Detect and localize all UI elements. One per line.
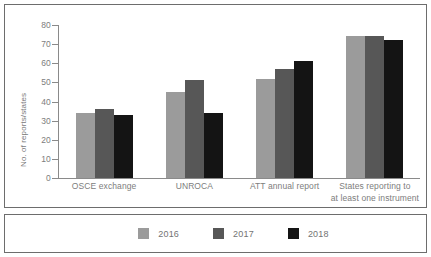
legend-item[interactable]: 2016: [138, 228, 179, 239]
legend-item[interactable]: 2018: [288, 228, 329, 239]
y-axis-tick-labels: 01020304050607080: [27, 17, 51, 187]
y-axis-tick-label: 20: [41, 135, 51, 145]
legend-label: 2016: [158, 229, 179, 239]
legend-swatch: [138, 228, 149, 239]
chart-figure: No. of reports/states 01020304050607080 …: [0, 0, 431, 257]
y-axis-tick-label: 50: [41, 77, 51, 87]
y-axis-tick-label: 30: [41, 116, 51, 126]
bar: [166, 92, 185, 178]
plot-panel: No. of reports/states 01020304050607080 …: [4, 4, 427, 208]
bar: [185, 80, 204, 178]
x-axis-line: [58, 178, 420, 179]
bar: [114, 115, 133, 178]
bar-group: [346, 25, 403, 178]
bar-group: [166, 25, 223, 178]
legend-label: 2017: [233, 229, 254, 239]
legend-swatch: [288, 228, 299, 239]
bar: [76, 113, 95, 178]
legend: 201620172018: [138, 228, 328, 239]
legend-item[interactable]: 2017: [213, 228, 254, 239]
bar-group: [76, 25, 133, 178]
plot-area: [59, 25, 420, 178]
y-axis-tick-label: 10: [41, 154, 51, 164]
bar: [294, 61, 313, 178]
bar: [346, 36, 365, 178]
legend-panel: 201620172018: [4, 214, 427, 253]
bar: [95, 109, 114, 178]
x-axis-category-labels: OSCE exchangeUNROCAATT annual reportStat…: [59, 181, 420, 207]
y-axis-tick-label: 70: [41, 39, 51, 49]
legend-label: 2018: [308, 229, 329, 239]
x-axis-category-label-line: States reporting to: [318, 181, 431, 193]
bar: [275, 69, 294, 178]
x-axis-category-label: States reporting toat least one instrume…: [318, 181, 431, 204]
x-axis-category-label-line: at least one instrument: [318, 193, 431, 205]
y-axis-tick-label: 80: [41, 20, 51, 30]
bar: [365, 36, 384, 178]
bar: [204, 113, 223, 178]
bar-group: [256, 25, 313, 178]
bar: [384, 40, 403, 178]
y-axis-tick-label: 60: [41, 58, 51, 68]
bar: [256, 79, 275, 178]
y-axis-tick-label: 40: [41, 97, 51, 107]
legend-swatch: [213, 228, 224, 239]
